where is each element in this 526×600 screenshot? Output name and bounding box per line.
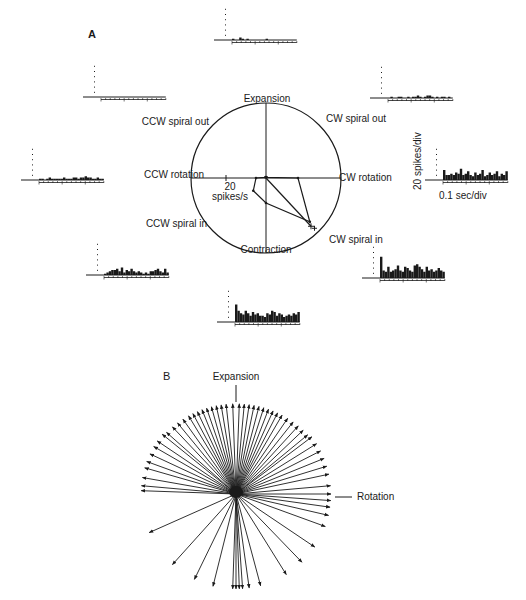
direction-label-ccw-spiral-in: CCW spiral in	[146, 218, 207, 229]
tuning-point-ccw-spiral-in	[252, 189, 255, 192]
histogram-bar	[92, 179, 94, 180]
label-expansion: Expansion	[213, 371, 260, 382]
histogram-y-tick	[381, 67, 382, 68]
histogram-bar	[392, 271, 394, 279]
histogram-bar	[123, 273, 125, 276]
histogram-y-tick	[32, 164, 33, 165]
histogram-bar	[152, 271, 154, 275]
histogram-bar	[390, 97, 392, 98]
histogram-bar	[237, 311, 239, 322]
histogram-bar	[387, 267, 389, 278]
histogram-y-tick	[436, 159, 437, 160]
histogram-bar	[80, 178, 82, 181]
histogram-bar	[412, 97, 414, 98]
histogram-bar	[460, 169, 462, 180]
histogram-bar	[390, 272, 392, 278]
panel-b: ExpansionRotation	[141, 371, 394, 589]
histogram-bar	[455, 173, 457, 181]
histogram-bar	[154, 270, 156, 275]
histogram-bar	[450, 174, 452, 180]
histogram-bar	[126, 270, 128, 275]
histogram-bar	[138, 271, 140, 275]
histogram-y-tick	[228, 312, 229, 313]
histogram-y-tick	[228, 301, 229, 302]
histogram-bar	[417, 96, 419, 99]
histogram-y-tick	[97, 259, 98, 260]
histogram-y-tick	[436, 170, 437, 171]
histogram-y-tick	[32, 175, 33, 176]
histogram-bar	[436, 97, 438, 98]
histogram-bar	[481, 170, 483, 180]
vector-arrow	[236, 435, 308, 494]
histogram-bar	[99, 179, 101, 180]
histogram-bar	[159, 271, 161, 275]
histogram-y-tick	[373, 252, 374, 253]
histogram-bar	[293, 313, 295, 322]
histogram-bar	[418, 267, 420, 278]
histogram-bar	[281, 315, 283, 323]
histogram-bar	[135, 273, 137, 276]
histogram-bar	[288, 315, 290, 323]
vector-arrow	[194, 494, 236, 579]
histogram-y-tick	[436, 154, 437, 155]
histogram-bar	[448, 97, 450, 98]
direction-label-ccw-spiral-out: CCW spiral out	[142, 116, 209, 127]
panel-b-label: B	[163, 370, 170, 382]
histogram-y-tick	[228, 296, 229, 297]
histogram-bar	[242, 315, 244, 323]
histogram-bar	[467, 171, 469, 180]
histogram-bar	[118, 271, 120, 275]
direction-label-ccw-rotation: CCW rotation	[144, 169, 204, 180]
histogram-y-tick	[225, 9, 226, 10]
histogram-bar	[245, 311, 247, 322]
histogram-bar	[295, 315, 297, 323]
histogram-bar	[402, 272, 404, 278]
histogram-bar	[407, 97, 409, 98]
histogram-bar	[65, 179, 67, 180]
histogram-bar	[443, 170, 445, 180]
histogram-bar	[424, 97, 426, 98]
histogram-bar	[73, 178, 75, 181]
histogram-y-tick	[94, 66, 95, 67]
histogram-bar	[157, 269, 159, 275]
direction-label-contraction: Contraction	[240, 244, 291, 255]
histogram-bar	[491, 175, 493, 180]
histogram-y-tick	[381, 82, 382, 83]
histogram-y-tick	[381, 72, 382, 73]
histogram-bar	[142, 274, 144, 275]
histogram-bar	[249, 316, 251, 322]
figure: A 20spikes/sExpansionCW spiral outCW rot…	[0, 0, 526, 600]
histogram-bar	[428, 271, 430, 279]
histogram-bar	[109, 271, 111, 275]
histogram-bar	[51, 179, 53, 180]
histogram-bar	[419, 97, 421, 98]
histogram-bar	[145, 273, 147, 276]
histogram-y-tick	[373, 247, 374, 248]
histogram-y-tick	[225, 35, 226, 36]
histogram-y-tick	[436, 175, 437, 176]
histogram-bar	[49, 178, 51, 181]
histogram-y-tick	[97, 244, 98, 245]
histogram-bar	[445, 175, 447, 180]
histogram-ccw-spiral-out	[83, 66, 166, 102]
histogram-bar	[247, 313, 249, 322]
vector-arrow	[236, 494, 243, 589]
histogram-cw-spiral-in	[362, 247, 445, 283]
histogram-bar	[493, 174, 495, 180]
histogram-bar	[489, 173, 491, 181]
histogram-ccw-spiral-in	[86, 244, 169, 280]
histogram-bar	[498, 176, 500, 180]
histogram-bar	[75, 178, 77, 181]
histogram-bar	[474, 173, 476, 181]
histogram-bar	[448, 175, 450, 180]
histogram-y-tick	[373, 257, 374, 258]
histogram-bar	[82, 178, 84, 181]
histogram-y-tick	[94, 92, 95, 93]
vector-arrow	[236, 494, 286, 575]
histogram-bar	[97, 178, 99, 181]
scale-unit-label: spikes/s	[212, 191, 248, 202]
label-rotation: Rotation	[357, 491, 394, 502]
histogram-bar	[409, 271, 411, 279]
histogram-cw-spiral-out	[370, 67, 453, 103]
histogram-ccw-rotation	[21, 149, 104, 185]
